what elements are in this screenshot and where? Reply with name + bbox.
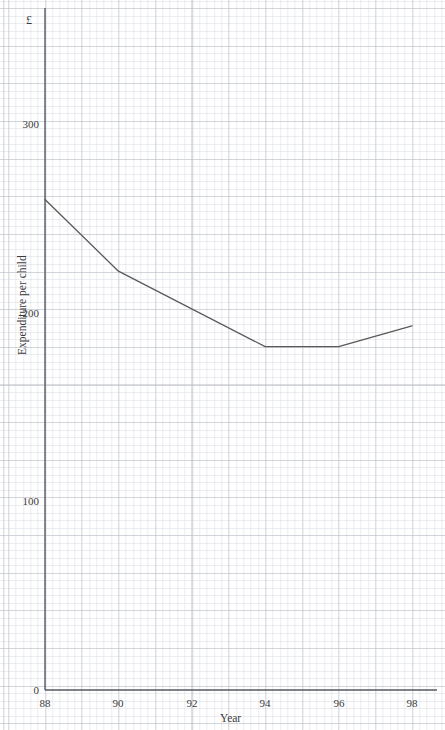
x-tick-label-90: 90 [103,698,133,709]
y-tick-label-0: 0 [5,685,39,696]
x-tick-label-94: 94 [250,698,280,709]
y-tick-label-100: 100 [5,496,39,507]
x-tick-label-88: 88 [30,698,60,709]
y-axis-unit-symbol: £ [26,14,32,26]
x-tick-label-98: 98 [397,698,427,709]
chart-page: £ 300 200 100 0 Expenditure per child 88… [0,0,445,730]
expenditure-line-series [45,199,412,346]
x-tick-label-96: 96 [324,698,354,709]
line-chart-plot [0,0,445,730]
y-axis-title: Expenditure per child [17,255,29,355]
x-tick-label-92: 92 [177,698,207,709]
x-axis-title: Year [220,713,241,725]
y-tick-label-300: 300 [5,119,39,130]
